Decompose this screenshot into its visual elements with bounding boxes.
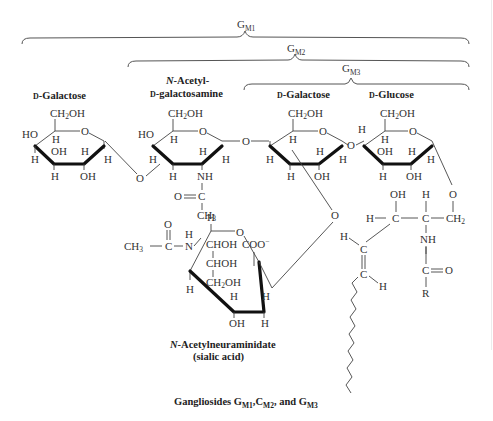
svg-text:H: H — [230, 290, 238, 302]
svg-text:C: C — [165, 240, 172, 252]
label-galnac-line1: N-Acetyl- — [165, 75, 210, 86]
ganglioside-diagram: GM1 GM2 GM3 D-Galactose N-Acetyl- D-gala… — [0, 0, 493, 421]
label-sialic-line2: (sialic acid) — [193, 351, 245, 363]
svg-text:H: H — [289, 133, 297, 145]
svg-text:C: C — [392, 212, 399, 224]
label-galnac-line2: D-galactosamine — [150, 88, 223, 99]
svg-text:C: C — [360, 243, 367, 255]
svg-text:H: H — [51, 170, 59, 182]
svg-text:O: O — [236, 226, 244, 238]
svg-text:H: H — [358, 123, 366, 135]
svg-text:C: C — [360, 268, 367, 280]
svg-text:CH2OH: CH2OH — [206, 276, 241, 290]
svg-text:H: H — [104, 153, 112, 165]
label-sialic-line1: N-Acetylneuraminidate — [169, 339, 276, 350]
svg-text:CH2OH: CH2OH — [168, 107, 203, 121]
ring-glucose: CH2OH H O H OH H H H OH — [358, 107, 435, 182]
svg-text:H: H — [408, 145, 416, 157]
svg-text:OH: OH — [229, 317, 245, 329]
figure-caption: Gangliosides GM1,CM2, and GM3 — [174, 396, 318, 410]
svg-text:H: H — [316, 145, 324, 157]
svg-text:CHOH: CHOH — [206, 238, 237, 250]
svg-text:H: H — [186, 283, 194, 295]
label-d-glucose: D-Glucose — [369, 89, 414, 100]
svg-text:H: H — [222, 153, 230, 165]
svg-text:O: O — [445, 264, 453, 276]
svg-text:NH: NH — [420, 233, 436, 245]
svg-text:OH: OH — [377, 145, 393, 157]
svg-text:HO: HO — [22, 128, 38, 140]
svg-text:O: O — [409, 125, 417, 137]
label-d-galactose-terminal: D-Galactose — [33, 90, 86, 101]
svg-text:OH: OH — [406, 170, 422, 182]
svg-text:NH: NH — [197, 170, 213, 182]
svg-text:H: H — [169, 170, 177, 182]
svg-text:H: H — [31, 153, 39, 165]
svg-text:R: R — [422, 287, 430, 299]
bond-gal-galnac-b — [146, 164, 160, 176]
svg-text:H: H — [340, 230, 348, 242]
glycosidic-oxygen-1: O — [136, 172, 144, 184]
svg-text:H: H — [207, 211, 215, 223]
glycosidic-oxygen-3: O — [347, 139, 355, 151]
svg-text:H: H — [262, 290, 270, 302]
svg-text:H: H — [366, 212, 374, 224]
svg-text:CH3: CH3 — [124, 240, 143, 254]
svg-text:C: C — [422, 264, 429, 276]
svg-text:CH2OH: CH2OH — [288, 107, 323, 121]
svg-text:O: O — [81, 125, 89, 137]
svg-text:O: O — [199, 125, 207, 137]
bond-sialic-b — [272, 222, 333, 288]
svg-text:HO: HO — [138, 128, 154, 140]
svg-text:H: H — [149, 153, 157, 165]
svg-text:H: H — [52, 133, 60, 145]
svg-text:O: O — [319, 125, 327, 137]
svg-text:H: H — [381, 133, 389, 145]
ceramide: OH H H C C CH2 NH C O R H C C H — [340, 188, 465, 393]
svg-text:H: H — [266, 153, 274, 165]
svg-text:CH2: CH2 — [446, 212, 465, 226]
svg-text:H: H — [185, 228, 193, 240]
ring-galnac: CH2OH HO O H H H H H NH O C CH3 — [138, 107, 230, 223]
svg-text:H: H — [199, 145, 207, 157]
bracket-gm1: GM1 — [22, 18, 469, 44]
bracket-gm3: GM3 — [244, 62, 469, 90]
svg-text:O: O — [174, 190, 182, 202]
svg-text:H: H — [81, 145, 89, 157]
svg-text:H: H — [287, 170, 295, 182]
svg-text:H: H — [379, 170, 387, 182]
bracket-gm2: GM2 — [128, 42, 469, 67]
svg-text:N: N — [185, 240, 193, 252]
svg-text:OH: OH — [314, 170, 330, 182]
svg-text:GM3: GM3 — [342, 62, 361, 77]
svg-text:H: H — [261, 317, 269, 329]
ring-galactose-inner: CH2OH O H H H H H OH — [266, 107, 347, 182]
glycosidic-oxygen-2: O — [242, 135, 250, 147]
svg-text:CH2OH: CH2OH — [50, 107, 85, 121]
svg-text:COO−: COO− — [242, 237, 269, 250]
svg-text:H: H — [339, 153, 347, 165]
svg-text:O: O — [164, 218, 172, 230]
ring-sialic-acid: H O CHOH CHOH CH2OH COO− H H H OH H H N … — [124, 211, 270, 329]
svg-text:GM1: GM1 — [237, 18, 256, 33]
bond-glc-ceramide — [432, 141, 452, 185]
svg-text:C: C — [198, 190, 205, 202]
svg-text:H: H — [427, 153, 435, 165]
label-d-galactose-inner: D-Galactose — [277, 89, 330, 100]
svg-text:C: C — [422, 212, 429, 224]
svg-text:OH: OH — [390, 188, 406, 200]
ring-galactose-terminal: CH2OH HO O H H OH H H H OH — [22, 107, 112, 182]
svg-text:CH2OH: CH2OH — [380, 107, 415, 121]
svg-text:OH: OH — [51, 145, 67, 157]
bond-gal-glc-b — [356, 141, 364, 145]
svg-text:H: H — [379, 280, 387, 292]
svg-text:H: H — [422, 188, 430, 200]
structure-svg: GM1 GM2 GM3 D-Galactose N-Acetyl- D-gala… — [0, 0, 493, 421]
svg-text:GM2: GM2 — [287, 42, 306, 57]
svg-text:CHOH: CHOH — [206, 257, 237, 269]
sialic-linkage-oxygen: O — [331, 209, 339, 221]
svg-text:OH: OH — [80, 170, 96, 182]
svg-text:H: H — [170, 133, 178, 145]
ceramide-oxygen: O — [449, 188, 457, 200]
